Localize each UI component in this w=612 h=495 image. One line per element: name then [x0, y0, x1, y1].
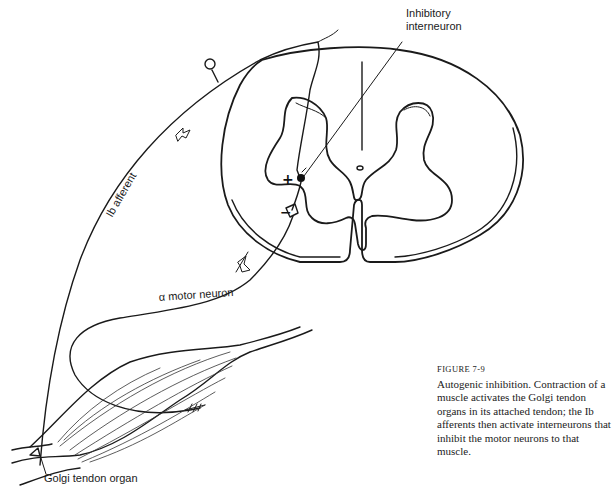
- label-ib-afferent: Ib afferent: [103, 170, 138, 219]
- label-inhibitory-interneuron-line2: interneuron: [406, 20, 462, 32]
- label-alpha-motor-neuron: α motor neuron: [158, 286, 233, 303]
- interneuron-pointer-line: [304, 42, 402, 176]
- excitatory-sign: +: [282, 171, 294, 187]
- figure-caption: FIGURE 7-9 Autogenic inhibition. Contrac…: [437, 363, 612, 459]
- alpha-motor-neuron-fiber: [70, 216, 293, 413]
- inhibitory-sign: −: [280, 204, 292, 220]
- figure-number: FIGURE 7-9: [437, 363, 612, 377]
- muscle-fibers: [58, 352, 236, 462]
- figure-caption-text: Autogenic inhibition. Contraction of a m…: [437, 378, 611, 458]
- spinal-cord-cross-section: [221, 47, 523, 262]
- golgi-tendon-organ: [30, 448, 46, 474]
- label-inhibitory-interneuron-line1: Inhibitory: [406, 7, 451, 19]
- label-golgi-tendon-organ: Golgi tendon organ: [44, 472, 138, 484]
- ib-afferent-fiber: [40, 30, 338, 465]
- muscle: [12, 327, 312, 485]
